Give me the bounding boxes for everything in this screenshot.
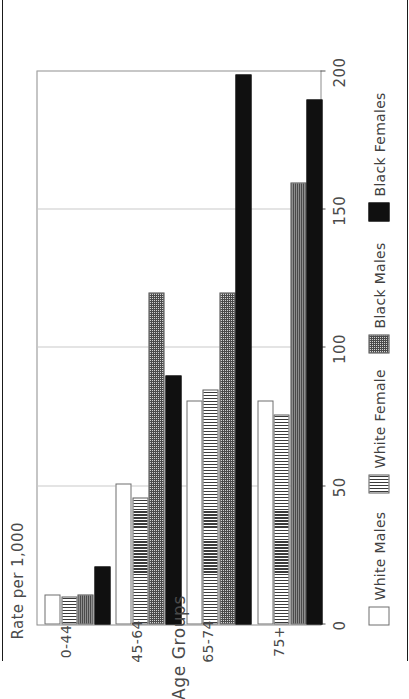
- category-label: 75+: [270, 626, 286, 657]
- legend-label: Black Females: [371, 92, 387, 196]
- category-axis-title: Age Groups: [168, 595, 188, 699]
- bar: [306, 99, 322, 624]
- axis-tick-label: 50: [330, 477, 348, 497]
- bar: [290, 182, 306, 624]
- category-label: 0-44: [57, 624, 73, 657]
- legend-swatch-icon: [368, 202, 389, 221]
- value-axis-ticks: 050100150200: [322, 70, 362, 625]
- legend-swatch-icon: [368, 474, 389, 493]
- legend-swatch-icon: [368, 606, 389, 625]
- category-label: 65-74: [199, 620, 215, 663]
- legend-label: White Female: [371, 369, 387, 468]
- axis-tick-label: 0: [330, 620, 348, 630]
- legend-swatch-icon: [368, 334, 389, 353]
- category-axis-labels: 0-4445-6465-7475+: [0, 70, 285, 625]
- axis-tick-label: 150: [330, 195, 348, 225]
- legend-item[interactable]: White Female: [368, 369, 389, 493]
- legend-item[interactable]: White Males: [368, 511, 389, 625]
- legend-item[interactable]: Black Males: [368, 242, 389, 353]
- legend-label: White Males: [371, 511, 387, 600]
- category-label: 45-64: [128, 620, 144, 663]
- legend-item[interactable]: Black Females: [368, 92, 389, 221]
- axis-tick-label: 200: [330, 57, 348, 87]
- legend-label: Black Males: [371, 242, 387, 328]
- axis-tick-label: 100: [330, 334, 348, 364]
- chart-legend: White MalesWhite FemaleBlack MalesBlack …: [368, 25, 402, 625]
